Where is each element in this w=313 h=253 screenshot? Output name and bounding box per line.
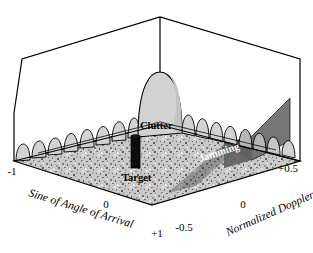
target-spike [131,135,140,169]
radar-surface-svg: Clutter Target Jamming -1 0 +1 -0.5 0 +0… [0,0,313,253]
target-label: Target [122,172,152,183]
y-tick-mid: 0 [240,198,246,210]
radar-surface-figure: Clutter Target Jamming -1 0 +1 -0.5 0 +0… [0,0,313,253]
y-tick-max: +0.5 [278,162,298,174]
y-axis-label: Normalized Doppler [223,188,313,239]
x-tick-max: +1 [151,227,163,239]
clutter-label: Clutter [140,120,173,131]
x-tick-min: -1 [7,165,16,177]
y-tick-min: -0.5 [175,221,193,233]
